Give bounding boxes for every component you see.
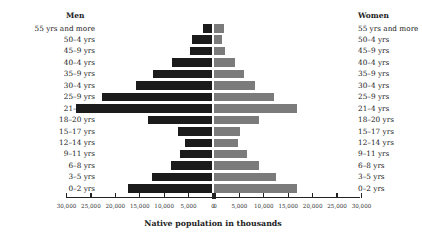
women-bar — [214, 70, 244, 79]
x-tick — [139, 193, 140, 198]
x-tick-label: 5,000 — [181, 203, 197, 209]
men-bar — [180, 150, 212, 159]
x-tick — [164, 193, 165, 198]
x-tick-label: 25,000 — [327, 203, 347, 209]
women-bar — [214, 93, 274, 102]
women-bar — [214, 150, 247, 159]
x-tick-label: 25,000 — [81, 203, 101, 209]
women-age-label: 45–9 yrs — [358, 46, 389, 55]
x-tick-label: 30,000 — [57, 203, 77, 209]
women-age-label: 55 yrs and more — [358, 24, 418, 33]
x-tick-label: 10,000 — [154, 203, 174, 209]
men-age-label: 6–8 yrs — [0, 161, 95, 170]
x-tick-label: 10,000 — [254, 203, 274, 209]
men-bar — [102, 93, 213, 102]
x-tick-label: 5,000 — [231, 203, 247, 209]
men-header: Men — [66, 11, 85, 20]
men-bar — [171, 161, 213, 170]
women-bar — [214, 173, 276, 182]
women-header: Women — [358, 11, 389, 20]
men-bar — [178, 127, 213, 136]
men-bar — [203, 24, 213, 33]
x-tick — [188, 193, 189, 198]
x-tick — [263, 193, 264, 198]
women-age-label: 18–20 yrs — [358, 115, 394, 124]
men-bar — [153, 70, 213, 79]
men-bar — [190, 47, 213, 56]
women-bar — [214, 58, 235, 67]
women-bar — [214, 139, 238, 148]
x-tick — [90, 193, 91, 198]
men-bar — [172, 58, 212, 67]
women-bar — [214, 116, 259, 125]
men-bar — [192, 35, 212, 44]
women-age-label: 21–4 yrs — [358, 104, 389, 113]
men-age-label: 3–5 yrs — [0, 172, 95, 181]
women-bar — [214, 35, 222, 44]
men-age-label: 45–9 yrs — [0, 46, 95, 55]
men-bar — [128, 184, 212, 193]
men-age-label: 55 yrs and more — [0, 24, 95, 33]
x-tick-label: 20,000 — [303, 203, 323, 209]
x-tick-label: 0 — [213, 203, 217, 209]
men-age-label: 9–11 yrs — [0, 149, 95, 158]
men-age-label: 15–17 yrs — [0, 127, 95, 136]
women-bar — [214, 24, 224, 33]
x-tick-label: 15,000 — [130, 203, 150, 209]
x-tick — [288, 193, 289, 198]
women-age-label: 0–2 yrs — [358, 184, 385, 193]
women-bar — [214, 104, 297, 113]
men-bar — [136, 81, 213, 90]
men-age-label: 0–2 yrs — [0, 184, 95, 193]
women-age-label: 25–9 yrs — [358, 92, 389, 101]
men-age-label: 35–9 yrs — [0, 69, 95, 78]
men-age-label: 30–4 yrs — [0, 81, 95, 90]
x-tick — [312, 193, 313, 198]
women-bar — [214, 184, 297, 193]
women-age-label: 9–11 yrs — [358, 149, 389, 158]
men-bar — [185, 139, 212, 148]
women-age-label: 30–4 yrs — [358, 81, 389, 90]
men-age-label: 18–20 yrs — [0, 115, 95, 124]
women-age-label: 6–8 yrs — [358, 161, 385, 170]
x-axis-label: Native population in thousands — [0, 219, 422, 228]
women-bar — [214, 161, 259, 170]
women-age-label: 35–9 yrs — [358, 69, 389, 78]
women-bar — [214, 47, 225, 56]
men-age-label: 12–14 yrs — [0, 138, 95, 147]
x-tick — [115, 193, 116, 198]
men-age-label: 40–4 yrs — [0, 58, 95, 67]
x-tick — [361, 193, 362, 198]
women-age-label: 12–14 yrs — [358, 138, 394, 147]
men-age-label: 25–9 yrs — [0, 92, 95, 101]
x-tick-label: 30,000 — [352, 203, 372, 209]
women-age-label: 15–17 yrs — [358, 127, 394, 136]
x-tick — [214, 193, 216, 199]
men-age-label: 50–4 yrs — [0, 35, 95, 44]
x-tick — [239, 193, 240, 198]
women-age-label: 40–4 yrs — [358, 58, 389, 67]
women-age-label: 3–5 yrs — [358, 172, 385, 181]
men-bar — [148, 116, 213, 125]
x-tick-label: 15,000 — [278, 203, 298, 209]
men-bar — [152, 173, 212, 182]
x-tick — [336, 193, 337, 198]
women-bar — [214, 127, 240, 136]
x-tick — [66, 193, 67, 198]
men-bar — [76, 104, 213, 113]
x-tick-label: 20,000 — [106, 203, 126, 209]
women-bar — [214, 81, 255, 90]
women-age-label: 50–4 yrs — [358, 35, 389, 44]
